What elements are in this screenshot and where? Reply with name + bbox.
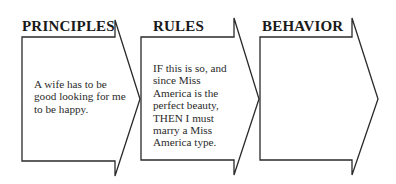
stage-text-principles: A wife has to be good looking for me to …: [34, 78, 129, 115]
stage-title-rules: RULES: [153, 18, 204, 35]
stage-title-principles: PRINCIPLES: [22, 18, 115, 35]
stage-arrow-behavior: [260, 18, 378, 175]
stage-text-rules: IF this is so, and since Miss America is…: [153, 62, 239, 149]
stage-title-behavior: BEHAVIOR: [262, 18, 343, 35]
